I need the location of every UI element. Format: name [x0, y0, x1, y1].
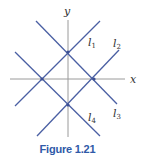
label-l4: l4: [88, 111, 97, 125]
label-l3: l3: [113, 107, 121, 121]
intersection-point: [66, 50, 69, 53]
y-axis-label: y: [63, 5, 71, 18]
line-l3: [36, 21, 117, 104]
intersection-point: [40, 77, 43, 80]
label-l1: l1: [88, 36, 96, 50]
label-l2: l2: [113, 37, 121, 51]
figure-diagram: y x l1 l2 l3 l4: [0, 0, 155, 163]
x-axis-label: x: [130, 73, 137, 86]
figure-caption: Figure 1.21: [0, 143, 135, 155]
intersection-point: [92, 77, 95, 80]
intersection-point: [66, 103, 69, 106]
